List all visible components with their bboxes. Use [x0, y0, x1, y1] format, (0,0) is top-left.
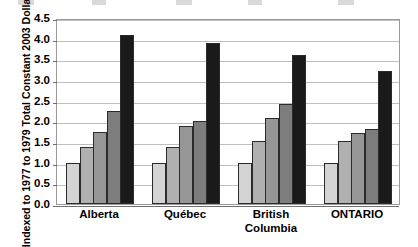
bar-ontario-series-1: [324, 163, 338, 204]
bar-ontario-series-5: [378, 71, 392, 204]
plot-area: [56, 19, 400, 205]
y-tick-label-3.5: 3.5: [20, 54, 50, 65]
y-tick-label-1.0: 1.0: [20, 158, 50, 169]
x-axis-label-alberta: Alberta: [56, 207, 142, 221]
x-axis-label-british-columbia: BritishColumbia: [228, 207, 314, 235]
legend-swatch-remnant-3: [176, 0, 192, 5]
bar-alberta-series-3: [93, 132, 107, 204]
bar-ontario-series-2: [338, 141, 352, 204]
legend-swatch-remnant-4: [248, 0, 262, 5]
x-axis-category-labels: AlbertaQuébecBritishColumbiaONTARIO: [56, 207, 400, 246]
y-axis-tick-labels: 4.54.03.53.02.52.01.51.00.50.0: [18, 0, 50, 246]
bar-alberta-series-1: [66, 163, 80, 204]
y-tick-label-0.5: 0.5: [20, 178, 50, 189]
x-axis-label-line: Alberta: [79, 208, 119, 220]
bar-group-québec: [152, 20, 220, 204]
bar-group-ontario: [324, 20, 392, 204]
bar-british-columbia-series-3: [265, 118, 279, 204]
bar-ontario-series-3: [351, 133, 365, 204]
bar-québec-series-5: [206, 43, 220, 204]
bar-british-columbia-series-4: [279, 104, 293, 204]
y-tick-label-1.5: 1.5: [20, 137, 50, 148]
bar-québec-series-2: [166, 147, 180, 204]
y-tick-label-2.5: 2.5: [20, 96, 50, 107]
legend-swatch-remnant-5: [338, 0, 354, 5]
x-axis-label-line: British: [253, 208, 289, 220]
bar-alberta-series-5: [120, 35, 134, 204]
bar-ontario-series-4: [365, 129, 379, 204]
x-axis-label-québec: Québec: [142, 207, 228, 221]
x-axis-label-line: ONTARIO: [331, 208, 383, 220]
y-tick-label-2.0: 2.0: [20, 116, 50, 127]
bar-british-columbia-series-2: [252, 141, 266, 204]
x-axis-label-line: Columbia: [228, 221, 314, 235]
y-tick-label-4.5: 4.5: [20, 13, 50, 24]
bars-layer: [57, 20, 399, 204]
bar-québec-series-1: [152, 163, 166, 204]
y-tick-label-0.0: 0.0: [20, 199, 50, 210]
bar-british-columbia-series-5: [292, 55, 306, 204]
bar-group-alberta: [66, 20, 134, 204]
bar-québec-series-3: [179, 126, 193, 204]
bar-group-british-columbia: [238, 20, 306, 204]
legend-swatch-remnant-2: [92, 0, 106, 5]
y-tick-label-4.0: 4.0: [20, 34, 50, 45]
y-tick-label-3.0: 3.0: [20, 75, 50, 86]
bar-british-columbia-series-1: [238, 163, 252, 204]
cropped-legend-strip: [0, 0, 418, 7]
x-axis-label-ontario: ONTARIO: [314, 207, 400, 221]
bar-québec-series-4: [193, 121, 207, 204]
bar-alberta-series-4: [107, 111, 121, 204]
x-axis-label-line: Québec: [164, 208, 206, 220]
bar-alberta-series-2: [80, 147, 94, 204]
